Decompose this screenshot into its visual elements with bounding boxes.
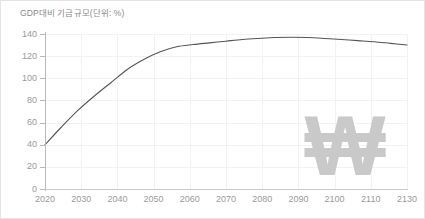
y-tick-80 [40, 100, 45, 101]
x-axis-label-2020: 2020 [35, 195, 55, 204]
y-axis-label-60: 60 [1, 118, 37, 127]
y-axis-label-120: 120 [1, 52, 37, 61]
x-axis-label-2070: 2070 [216, 195, 236, 204]
x-axis-line [45, 189, 408, 190]
y-axis-label-100: 100 [1, 74, 37, 83]
x-axis-label-2090: 2090 [288, 195, 308, 204]
x-axis-label-2040: 2040 [107, 195, 127, 204]
y-axis-label-0: 0 [1, 185, 37, 194]
y-tick-120 [40, 56, 45, 57]
y-tick-0 [40, 189, 45, 190]
y-axis-label-80: 80 [1, 96, 37, 105]
y-axis-label-40: 40 [1, 140, 37, 149]
y-tick-140 [40, 34, 45, 35]
x-axis-labels: 2020203020402050206020702080209021002110… [1, 195, 425, 211]
chart-screenshot: GDP대비 기금규모(단위: %) 020406080100120140 202… [0, 0, 425, 219]
plot-area [45, 34, 407, 189]
y-tick-20 [40, 167, 45, 168]
series-line-gdp-fund-size [45, 34, 407, 189]
y-axis-label-20: 20 [1, 162, 37, 171]
y-tick-60 [40, 123, 45, 124]
x-axis-label-2080: 2080 [252, 195, 272, 204]
y-axis-labels: 020406080100120140 [1, 1, 39, 219]
y-tick-100 [40, 78, 45, 79]
x-axis-label-2060: 2060 [180, 195, 200, 204]
y-axis-line [45, 32, 46, 191]
gridline-v-2130 [407, 34, 408, 189]
x-axis-label-2030: 2030 [71, 195, 91, 204]
y-tick-40 [40, 145, 45, 146]
y-axis-label-140: 140 [1, 30, 37, 39]
x-axis-label-2130: 2130 [397, 195, 417, 204]
x-axis-label-2100: 2100 [325, 195, 345, 204]
x-axis-label-2110: 2110 [361, 195, 380, 204]
x-axis-label-2050: 2050 [144, 195, 164, 204]
